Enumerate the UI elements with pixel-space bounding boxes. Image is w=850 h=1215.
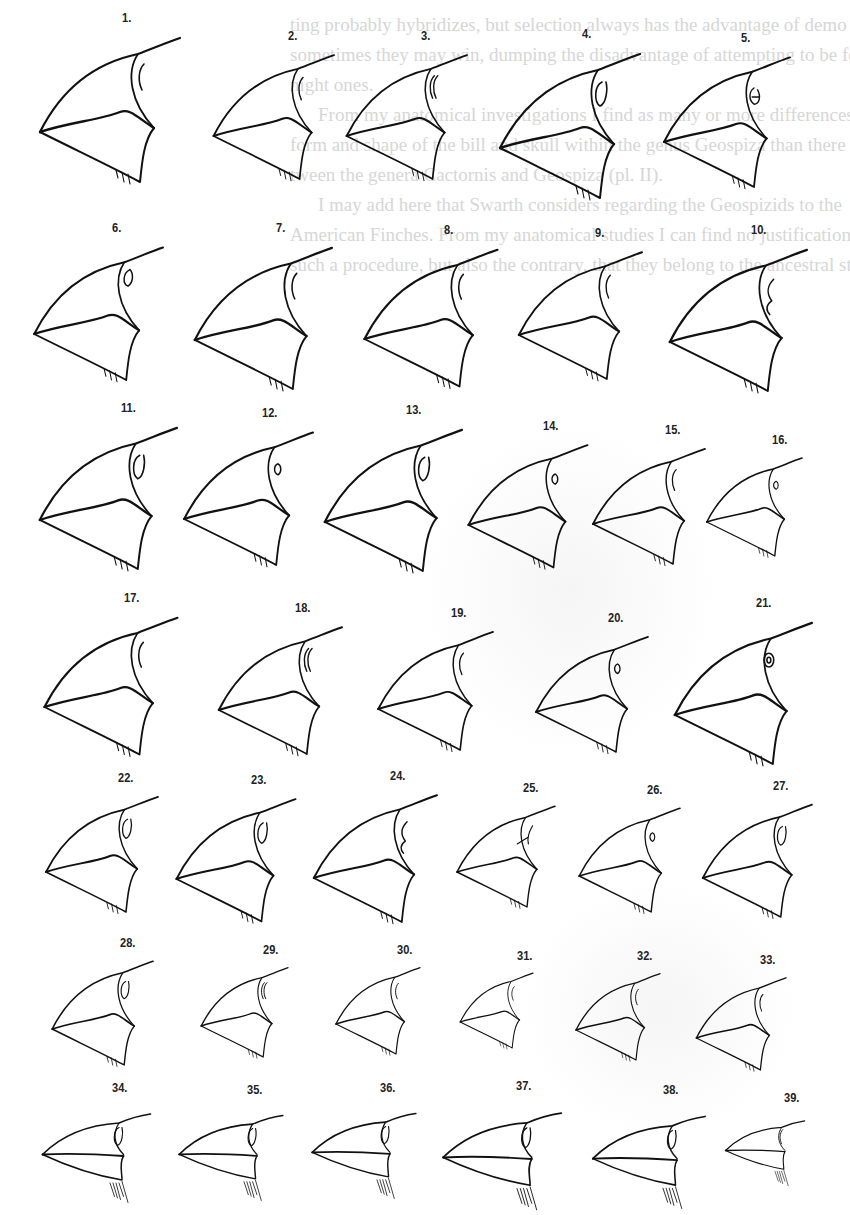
- upper-mandible: [469, 445, 588, 525]
- gape-line: [34, 315, 139, 334]
- gape-line: [443, 1157, 532, 1159]
- lower-mandible: [593, 521, 684, 564]
- culmen-line: [425, 69, 444, 133]
- lower-mandible: [703, 875, 792, 917]
- bristles-icon: [663, 1187, 682, 1209]
- lower-mandible: [179, 1154, 257, 1178]
- beak-drawing-icon: [305, 1102, 427, 1215]
- figure-number: 9.: [595, 225, 604, 240]
- lower-mandible: [325, 518, 437, 571]
- nostril-icon: [460, 653, 464, 674]
- beak-drawing-icon: [35, 1102, 163, 1215]
- beak-drawing-icon: [25, 242, 181, 389]
- gape-line: [664, 123, 767, 142]
- lower-mandible: [336, 1022, 404, 1054]
- figure-number: 28.: [120, 935, 135, 950]
- lower-mandible: [45, 703, 153, 754]
- gape-line: [579, 861, 661, 876]
- upper-mandible: [336, 968, 420, 1024]
- upper-mandible: [670, 250, 807, 342]
- bristles-icon: [775, 1170, 788, 1185]
- gape-line: [536, 695, 627, 712]
- nostril-icon: [764, 653, 774, 667]
- upper-mandible: [314, 795, 437, 878]
- beak-drawing-icon: [700, 454, 816, 563]
- figure-number: 12.: [262, 405, 277, 420]
- lower-mandible: [177, 876, 274, 922]
- upper-mandible: [43, 1114, 151, 1155]
- beak-drawing-icon: [38, 792, 174, 920]
- upper-mandible: [179, 1116, 283, 1155]
- figure-number: 10.: [751, 222, 766, 237]
- culmen-line: [746, 72, 766, 139]
- nostril-icon: [650, 833, 655, 842]
- figure-number: 11.: [121, 400, 136, 415]
- upper-mandible: [579, 808, 680, 876]
- lower-mandible: [347, 133, 445, 179]
- nostril-icon: [636, 989, 639, 1005]
- beak-drawing-icon: [660, 244, 827, 401]
- gape-line: [195, 320, 307, 340]
- lower-mandible: [40, 516, 152, 569]
- lower-mandible: [365, 335, 473, 386]
- bristles-icon: [377, 1178, 394, 1198]
- gape-line: [219, 692, 319, 710]
- gape-line: [40, 500, 152, 520]
- upper-mandible: [177, 799, 296, 879]
- beak-drawing-icon: [572, 804, 694, 919]
- gape-line: [457, 857, 537, 872]
- upper-mandible: [500, 54, 640, 148]
- figure-number: 18.: [295, 600, 310, 615]
- nostril-icon: [304, 648, 312, 671]
- gape-line: [460, 1011, 519, 1022]
- beak-drawing-icon: [695, 800, 828, 925]
- nostril-icon: [615, 664, 620, 674]
- upper-mandible: [593, 1116, 705, 1158]
- lower-mandible: [460, 1020, 519, 1048]
- figure-number: 24.: [390, 768, 405, 783]
- lower-mandible: [664, 138, 767, 187]
- upper-mandible: [34, 248, 163, 334]
- gape-line: [184, 500, 289, 519]
- nostril-icon: [672, 470, 676, 491]
- upper-mandible: [195, 248, 332, 340]
- lower-mandible: [576, 1028, 644, 1060]
- upper-mandible: [312, 1114, 416, 1153]
- nostril-icon: [774, 481, 779, 489]
- lower-mandible: [726, 1151, 785, 1170]
- figure-number: 39.: [784, 1090, 799, 1105]
- culmen-line: [118, 973, 134, 1026]
- culmen-line: [769, 469, 784, 519]
- figure-number: 14.: [543, 418, 558, 433]
- nostril-icon: [123, 819, 132, 838]
- nostril-icon: [292, 273, 297, 298]
- gape-line: [46, 855, 137, 872]
- beak-drawing-icon: [168, 794, 313, 930]
- culmen-line: [609, 650, 627, 709]
- upper-mandible: [726, 1121, 805, 1151]
- upper-mandible: [40, 38, 180, 132]
- lower-mandible: [593, 1159, 677, 1186]
- figure-number: 16.: [772, 432, 787, 447]
- figure-number: 19.: [451, 605, 466, 620]
- culmen-line: [764, 639, 786, 712]
- gape-line: [179, 1154, 257, 1156]
- upper-mandible: [519, 252, 642, 335]
- lower-mandible: [214, 133, 312, 179]
- figure-number: 5.: [741, 30, 750, 45]
- lower-mandible: [43, 1155, 124, 1181]
- figure-number: 23.: [251, 772, 266, 787]
- nostril-icon: [512, 987, 514, 1001]
- culmen-line: [299, 641, 319, 706]
- upper-mandible: [347, 55, 467, 136]
- culmen-line: [268, 447, 289, 515]
- upper-mandible: [52, 961, 153, 1029]
- upper-mandible: [184, 433, 313, 519]
- beak-drawing-icon: [205, 50, 351, 188]
- upper-mandible: [457, 806, 555, 872]
- gape-line: [52, 1014, 134, 1029]
- nostril-icon: [596, 82, 607, 106]
- nostril-icon: [760, 994, 763, 1011]
- beak-drawing-icon: [720, 1112, 814, 1200]
- beak-drawing-icon: [195, 964, 300, 1063]
